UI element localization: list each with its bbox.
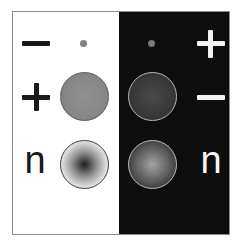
plus-vertical-bar xyxy=(34,83,39,111)
radial-light-center-particle xyxy=(128,140,177,189)
neutral-label: n xyxy=(21,141,49,179)
minus-bar xyxy=(197,95,225,100)
small-particle-dot xyxy=(148,40,155,47)
plus-vertical-bar xyxy=(208,30,213,58)
radial-dark-center-particle xyxy=(60,140,109,189)
neutral-label: n xyxy=(197,141,225,179)
small-particle-dot xyxy=(80,40,87,47)
minus-bar xyxy=(22,41,50,46)
dark-disc-particle xyxy=(128,72,177,121)
gray-disc-particle xyxy=(60,72,109,121)
